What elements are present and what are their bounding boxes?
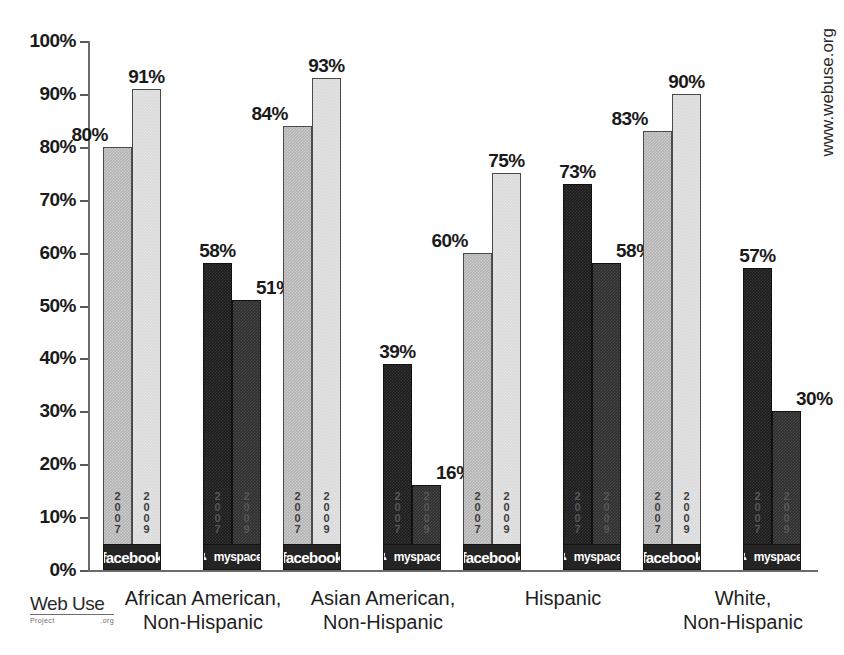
- bar-chart: 0%10%20%30%40%50%60%70%80%90%100% 80%200…: [0, 0, 844, 655]
- bar-value-label: 30%: [796, 388, 833, 412]
- bar-value-label: 90%: [668, 71, 705, 95]
- webuse-project-logo: Web Use Project .org: [30, 594, 114, 632]
- bar-year-tag: 2009: [783, 491, 789, 535]
- y-axis-tick-label: 0%: [50, 559, 76, 581]
- bar-value-label: 83%: [611, 108, 648, 132]
- y-axis-tick-label: 30%: [39, 400, 76, 422]
- logo-title: Web Use: [30, 594, 114, 615]
- myspace-brand-text: myspace.: [754, 550, 801, 564]
- bar-ms07: 57%2007: [743, 268, 772, 570]
- facebook-brand-plate: facebook: [643, 544, 701, 570]
- y-axis-tick-label: 20%: [39, 453, 76, 475]
- bar-fb09: 90%2009: [672, 94, 701, 570]
- logo-subtitle-left: Project: [30, 616, 55, 625]
- bar-group: 83%200790%2009facebook57%200730%2009mysp…: [88, 41, 818, 570]
- facebook-bar-pair: 83%200790%2009facebook: [643, 41, 701, 570]
- logo-subtitle-right: .org: [100, 616, 114, 625]
- y-axis: 0%10%20%30%40%50%60%70%80%90%100%: [0, 0, 86, 655]
- y-axis-tick-label: 40%: [39, 347, 76, 369]
- y-axis-tick-label: 70%: [39, 189, 76, 211]
- y-axis-tick-label: 10%: [39, 506, 76, 528]
- myspace-bar-pair: 57%200730%2009myspace.: [743, 41, 801, 570]
- bar-value-label: 57%: [739, 245, 776, 269]
- plot-area: 80%200791%2009facebook58%200751%2009mysp…: [88, 41, 818, 570]
- bar-fb07: 83%2007: [643, 131, 672, 570]
- bar-year-tag: 2007: [754, 491, 760, 535]
- bar-year-tag: 2009: [683, 491, 689, 535]
- y-axis-tick-label: 90%: [39, 83, 76, 105]
- x-axis-line: [88, 570, 818, 572]
- watermark-url: www.webuse.org: [818, 28, 838, 157]
- y-axis-tick-label: 60%: [39, 242, 76, 264]
- bar-year-tag: 2007: [654, 491, 660, 535]
- category-label: White, Non-Hispanic: [633, 586, 844, 634]
- y-axis-tick-label: 50%: [39, 295, 76, 317]
- myspace-brand-plate: myspace.: [743, 544, 801, 570]
- logo-subtitle: Project .org: [30, 616, 114, 625]
- y-axis-tick-label: 100%: [29, 30, 76, 52]
